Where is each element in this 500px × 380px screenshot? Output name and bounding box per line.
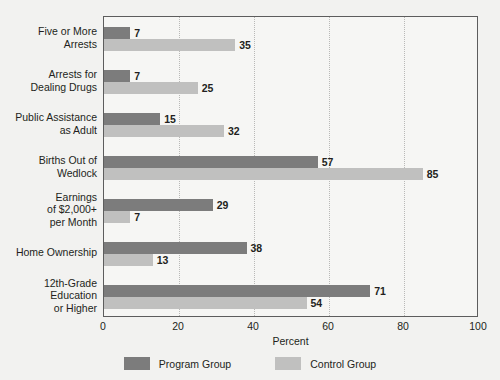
legend-swatch-control-group <box>275 357 301 370</box>
bar-value-program-2: 15 <box>164 113 176 125</box>
legend-entry-program-group: Program Group <box>124 357 231 370</box>
x-tick-label-80: 80 <box>383 320 423 332</box>
bar-control-3 <box>104 168 423 180</box>
bar-value-program-6: 71 <box>374 285 386 297</box>
category-label-2: Public Assistance as Adult <box>0 111 97 136</box>
bar-value-control-1: 25 <box>202 82 214 94</box>
bar-control-0 <box>104 39 235 51</box>
bar-value-control-0: 35 <box>239 39 251 51</box>
bar-program-2 <box>104 113 160 125</box>
bar-value-program-0: 7 <box>134 27 140 39</box>
legend-label-program-group: Program Group <box>159 358 231 370</box>
x-tick-label-60: 60 <box>308 320 348 332</box>
category-label-6: 12th-Grade Education or Higher <box>0 277 97 314</box>
bar-program-6 <box>104 285 370 297</box>
bar-control-1 <box>104 82 198 94</box>
x-axis-title: Percent <box>103 335 478 347</box>
bar-value-control-5: 13 <box>157 254 169 266</box>
bar-value-program-5: 38 <box>251 242 263 254</box>
bar-value-control-2: 32 <box>228 125 240 137</box>
category-label-3: Births Out of Wedlock <box>0 154 97 179</box>
bar-program-4 <box>104 199 213 211</box>
bar-program-0 <box>104 27 130 39</box>
bar-control-4 <box>104 211 130 223</box>
bar-chart-figure: 7357251532578529738137154 Five or More A… <box>0 0 500 380</box>
x-tick-label-100: 100 <box>458 320 498 332</box>
plot-area: 7357251532578529738137154 <box>103 16 478 317</box>
bar-program-3 <box>104 156 318 168</box>
gridline <box>404 17 405 316</box>
bar-control-2 <box>104 125 224 137</box>
bar-program-5 <box>104 242 247 254</box>
bar-value-control-4: 7 <box>134 211 140 223</box>
bar-program-1 <box>104 70 130 82</box>
bar-control-5 <box>104 254 153 266</box>
category-label-0: Five or More Arrests <box>0 25 97 50</box>
category-label-4: Earnings of $2,000+ per Month <box>0 191 97 228</box>
legend-swatch-program-group <box>124 357 150 370</box>
x-tick-label-0: 0 <box>83 320 123 332</box>
legend-entry-control-group: Control Group <box>275 357 376 370</box>
legend-label-control-group: Control Group <box>310 358 376 370</box>
bar-value-program-4: 29 <box>217 199 229 211</box>
x-tick-label-20: 20 <box>158 320 198 332</box>
bar-value-control-6: 54 <box>311 297 323 309</box>
bar-control-6 <box>104 297 307 309</box>
bar-value-control-3: 85 <box>427 168 439 180</box>
x-tick-label-40: 40 <box>233 320 273 332</box>
bar-value-program-3: 57 <box>322 156 334 168</box>
legend: Program Group Control Group <box>0 357 500 370</box>
bar-value-program-1: 7 <box>134 70 140 82</box>
category-label-1: Arrests for Dealing Drugs <box>0 68 97 93</box>
category-label-5: Home Ownership <box>0 246 97 258</box>
